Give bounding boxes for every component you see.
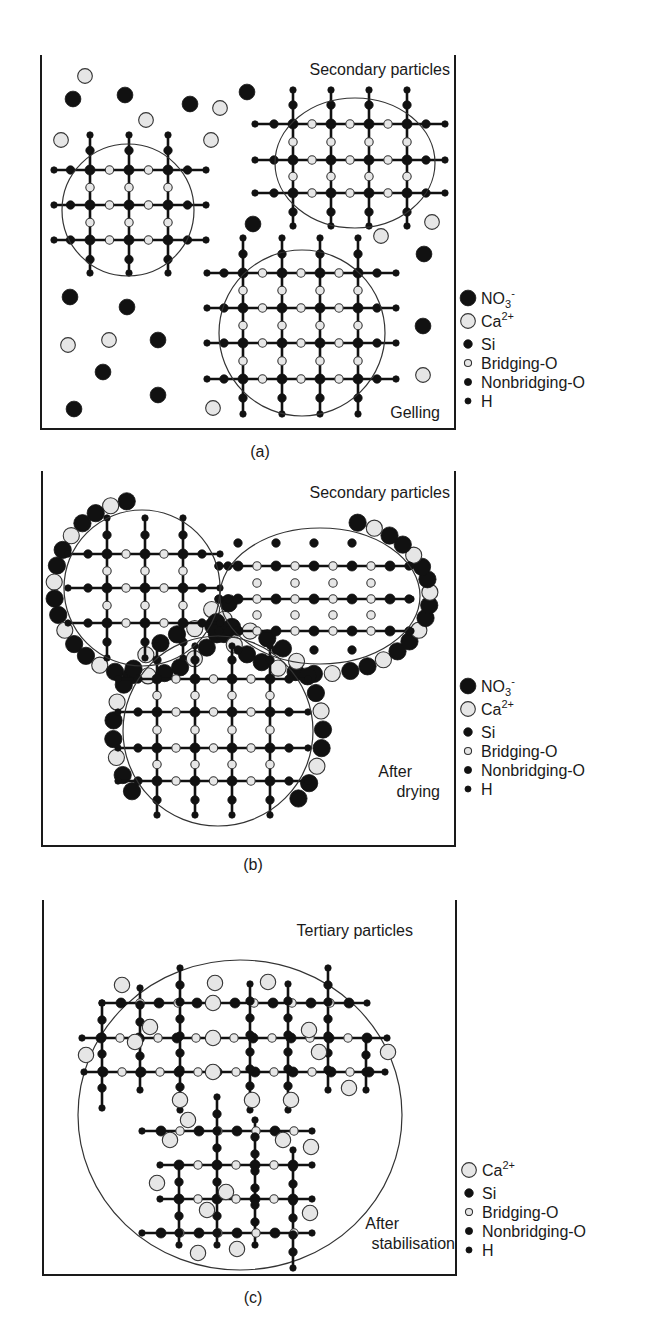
nonbridging-oxygen	[422, 120, 430, 128]
silicon-atom	[152, 776, 162, 786]
hydrogen-atom	[325, 1087, 331, 1093]
legend-item-bridging-o: Bridging-O	[464, 743, 557, 760]
calcium-ion	[204, 133, 219, 148]
nonbridging-oxygen	[175, 1195, 183, 1203]
nonbridging-oxygen	[284, 1014, 292, 1022]
bridging-oxygen	[346, 156, 354, 164]
nonbridging-oxygen	[179, 531, 187, 539]
calcium-ion	[149, 1175, 164, 1190]
bridging-oxygen	[365, 138, 373, 146]
hydrogen-atom	[177, 965, 183, 971]
hydrogen-atom	[382, 1069, 388, 1075]
silicon-atom	[347, 594, 357, 604]
nonbridging-oxygen	[125, 146, 133, 154]
legend-item-h: H	[465, 781, 493, 798]
silicon-atom	[232, 1126, 242, 1136]
nonbridging-oxygen	[373, 339, 381, 347]
bridging-oxygen	[153, 726, 161, 734]
bridging-oxygen	[367, 627, 375, 635]
bridging-oxygen	[308, 120, 316, 128]
nitrate-ion	[342, 662, 359, 679]
bridging-oxygen	[192, 1034, 200, 1042]
nitrate-ion	[359, 658, 376, 675]
bridging-oxygen	[153, 760, 161, 768]
legend-label: Si	[481, 336, 495, 353]
hydrogen-atom	[154, 812, 160, 818]
bridging-oxygen	[239, 321, 247, 329]
hydrogen-atom	[165, 270, 171, 276]
silicon-atom	[194, 1126, 204, 1136]
bridging-oxygen	[105, 236, 113, 244]
silicon-atom	[163, 235, 173, 245]
silicon-atom	[156, 1228, 166, 1238]
hydrogen-atom	[79, 1035, 85, 1041]
nonbridging-oxygen	[289, 1214, 297, 1222]
silicon-atom	[353, 268, 363, 278]
calcium-ion	[205, 1030, 220, 1045]
bridging-oxygen	[367, 562, 375, 570]
hydrogen-atom	[466, 1247, 472, 1253]
bridging-oxygen	[289, 138, 297, 146]
bridging-oxygen	[291, 579, 299, 587]
bridging-oxygen	[228, 726, 236, 734]
bridging-oxygen	[164, 218, 172, 226]
nonbridging-oxygen	[215, 627, 223, 635]
calcium-ion	[108, 749, 124, 765]
nonbridging-oxygen	[289, 1180, 297, 1188]
bridging-oxygen	[172, 708, 180, 716]
silicon-atom	[238, 303, 248, 313]
silicon-atom	[464, 728, 473, 737]
hydrogen-atom	[51, 167, 57, 173]
legend-item-ca2-: Ca2+	[461, 310, 514, 330]
silicon-atom	[178, 583, 188, 593]
calcium-ion	[103, 498, 119, 514]
calcium-ion	[303, 1139, 318, 1154]
bridging-oxygen	[297, 304, 305, 312]
silicon-atom	[353, 374, 363, 384]
bridging-oxygen	[403, 138, 411, 146]
nonbridging-oxygen	[310, 646, 318, 654]
nonbridging-oxygen	[278, 250, 286, 258]
hydrogen-atom	[203, 202, 209, 208]
silicon-atom	[140, 583, 150, 593]
stage-label: stabilisation	[371, 1235, 455, 1252]
nonbridging-oxygen	[213, 1144, 221, 1152]
bridging-oxygen	[252, 1229, 260, 1237]
hydrogen-atom	[309, 1230, 315, 1236]
hydrogen-atom	[240, 411, 246, 417]
bridging-oxygen	[329, 595, 337, 603]
bridging-oxygen	[247, 708, 255, 716]
bridging-oxygen	[239, 286, 247, 294]
silicon-atom	[271, 594, 281, 604]
silicon-atom	[277, 338, 287, 348]
nonbridging-oxygen	[272, 539, 280, 547]
hydrogen-atom	[126, 132, 132, 138]
nonbridging-oxygen	[327, 208, 335, 216]
legend-label: Ca2+	[481, 310, 514, 330]
silicon-atom	[163, 200, 173, 210]
bridging-oxygen	[172, 675, 180, 683]
silicon-atom	[385, 626, 395, 636]
silicon-atom	[116, 998, 126, 1008]
bridging-oxygen	[465, 1208, 472, 1215]
legend-label: NO3-	[481, 675, 515, 698]
calcium-ion	[54, 133, 69, 148]
bridging-oxygen	[403, 172, 411, 180]
bridging-oxygen	[239, 357, 247, 365]
bridging-oxygen	[144, 166, 152, 174]
bridging-oxygen	[270, 1195, 278, 1203]
bridging-oxygen	[308, 189, 316, 197]
nitrate-ion	[415, 318, 431, 334]
bridging-oxygen	[232, 1068, 240, 1076]
silicon-atom	[265, 674, 275, 684]
legend-label: Si	[481, 724, 495, 741]
silicon-atom	[238, 374, 248, 384]
bridging-oxygen	[247, 675, 255, 683]
nonbridging-oxygen	[98, 1084, 106, 1092]
panel-title: Secondary particles	[309, 484, 450, 501]
legend-item-no3-: NO3-	[460, 287, 515, 310]
hydrogen-atom	[328, 87, 334, 93]
nitrate-ion	[62, 289, 78, 305]
nonbridging-oxygen	[141, 531, 149, 539]
silicon-atom	[124, 165, 134, 175]
